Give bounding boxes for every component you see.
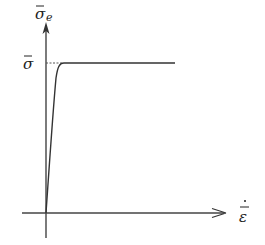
y-axis-label-main: σ — [35, 5, 46, 23]
x-axis-label-text: ε — [239, 208, 247, 226]
stress-strain-rate-diagram: σ e σ ε — [0, 0, 265, 245]
y-axis-label-subscript: e — [46, 11, 53, 24]
x-axis-label: ε — [239, 200, 249, 226]
stress-curve — [46, 63, 175, 213]
y-axis-label: σ e — [35, 5, 53, 24]
plateau-label: σ — [23, 55, 34, 73]
plateau-label-text: σ — [23, 55, 34, 73]
